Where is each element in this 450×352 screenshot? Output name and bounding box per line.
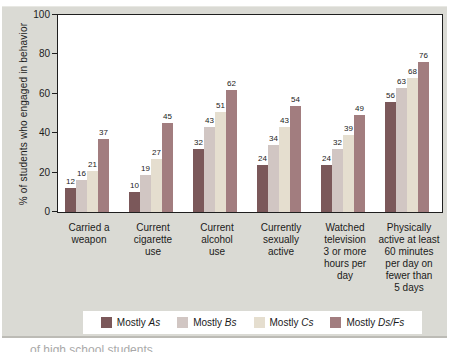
bar-slot: 24 xyxy=(257,15,268,212)
bar-slot: 76 xyxy=(418,15,429,212)
bar xyxy=(268,145,279,212)
bar-value-label: 27 xyxy=(152,148,161,157)
bar-value-label: 21 xyxy=(88,160,97,169)
category-label: Current alcohol use xyxy=(185,222,249,258)
bar-value-label: 62 xyxy=(227,79,236,88)
bar-value-label: 32 xyxy=(333,138,342,147)
bar-slot: 21 xyxy=(87,15,98,212)
chart-panel: % of students who engaged in behavior 12… xyxy=(2,6,447,338)
bar-value-label: 63 xyxy=(397,77,406,86)
bar-slot: 43 xyxy=(279,15,290,212)
bar-value-label: 56 xyxy=(386,91,395,100)
bar xyxy=(290,106,301,212)
category-label: Currently sexually active xyxy=(249,222,313,258)
bar-slot: 62 xyxy=(226,15,237,212)
legend-item: Mostly Bs xyxy=(177,317,236,328)
bar-value-label: 12 xyxy=(66,177,75,186)
caption-text: of high school students xyxy=(30,343,153,352)
legend-label: Mostly Cs xyxy=(270,317,314,328)
bar xyxy=(76,180,87,212)
legend-swatch xyxy=(254,317,265,328)
bar-value-label: 10 xyxy=(130,181,139,190)
bar-slot: 37 xyxy=(98,15,109,212)
category-label: Physically active at least 60 minutes pe… xyxy=(366,222,450,294)
bar xyxy=(279,127,290,212)
bar xyxy=(98,139,109,212)
category-label: Carried a weapon xyxy=(57,222,121,246)
bar-value-label: 49 xyxy=(355,104,364,113)
bar xyxy=(87,171,98,212)
bar-value-label: 32 xyxy=(194,138,203,147)
bar xyxy=(343,135,354,212)
bar-group: 24344354 xyxy=(257,15,301,212)
bar xyxy=(162,123,173,212)
bar-value-label: 39 xyxy=(344,124,353,133)
bar-value-label: 51 xyxy=(216,101,225,110)
category-label: Current cigarette use xyxy=(121,222,185,258)
bar-slot: 43 xyxy=(204,15,215,212)
y-tick-label: 100 xyxy=(20,9,50,20)
bar-group: 56636876 xyxy=(385,15,429,212)
legend-swatch xyxy=(101,317,112,328)
bar-value-label: 76 xyxy=(419,51,428,60)
bar-slot: 19 xyxy=(140,15,151,212)
bar xyxy=(396,88,407,212)
plot-area: 1216213710192745324351622434435424323949… xyxy=(57,14,443,213)
bar-value-label: 24 xyxy=(322,154,331,163)
bar-slot: 68 xyxy=(407,15,418,212)
bar-slot: 51 xyxy=(215,15,226,212)
bar xyxy=(407,78,418,212)
legend-label: Mostly As xyxy=(117,317,160,328)
bar-value-label: 45 xyxy=(163,112,172,121)
bar xyxy=(140,175,151,212)
bar xyxy=(385,102,396,212)
bar xyxy=(332,149,343,212)
y-tick-label: 20 xyxy=(20,167,50,178)
bar-slot: 34 xyxy=(268,15,279,212)
bar xyxy=(321,165,332,212)
bar-group: 12162137 xyxy=(65,15,109,212)
y-tick-mark xyxy=(52,14,57,15)
bar-slot: 12 xyxy=(65,15,76,212)
bar-slot: 27 xyxy=(151,15,162,212)
bar xyxy=(129,192,140,212)
bar-value-label: 43 xyxy=(205,116,214,125)
bar-value-label: 16 xyxy=(77,169,86,178)
bar-slot: 45 xyxy=(162,15,173,212)
y-tick-label: 0 xyxy=(20,206,50,217)
bar xyxy=(204,127,215,212)
bar-slot: 56 xyxy=(385,15,396,212)
bar-value-label: 19 xyxy=(141,164,150,173)
y-tick-mark xyxy=(52,53,57,54)
legend-item: Mostly As xyxy=(101,317,160,328)
bar-slot: 24 xyxy=(321,15,332,212)
y-tick-label: 40 xyxy=(20,127,50,138)
bar xyxy=(65,188,76,212)
bar xyxy=(226,90,237,212)
y-tick-label: 80 xyxy=(20,48,50,59)
bar xyxy=(215,112,226,212)
bar-group: 24323949 xyxy=(321,15,365,212)
bar xyxy=(151,159,162,212)
y-tick-mark xyxy=(52,93,57,94)
bar-value-label: 34 xyxy=(269,134,278,143)
legend-swatch xyxy=(177,317,188,328)
legend-item: Mostly Cs xyxy=(254,317,314,328)
bar-value-label: 54 xyxy=(291,95,300,104)
bar-slot: 32 xyxy=(193,15,204,212)
bar-value-label: 24 xyxy=(258,154,267,163)
bar xyxy=(354,115,365,212)
bar-slot: 49 xyxy=(354,15,365,212)
bar-value-label: 43 xyxy=(280,116,289,125)
bar-slot: 63 xyxy=(396,15,407,212)
legend-swatch xyxy=(330,317,341,328)
y-tick-mark xyxy=(52,211,57,212)
bar xyxy=(418,62,429,212)
bar-slot: 54 xyxy=(290,15,301,212)
legend-label: Mostly Ds/Fs xyxy=(346,317,404,328)
bar-value-label: 68 xyxy=(408,67,417,76)
bar xyxy=(193,149,204,212)
bar-group: 10192745 xyxy=(129,15,173,212)
bar-value-label: 37 xyxy=(99,128,108,137)
legend-item: Mostly Ds/Fs xyxy=(330,317,404,328)
